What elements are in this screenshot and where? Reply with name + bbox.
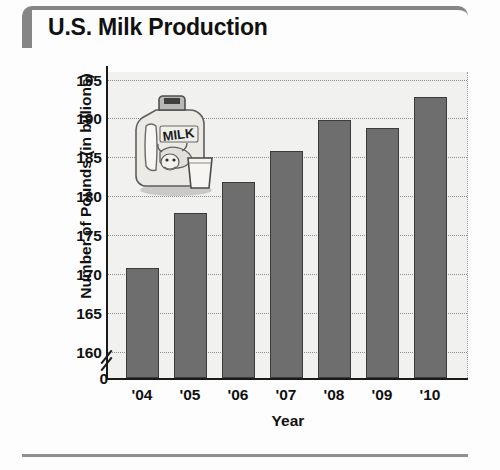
y-tick-label: 170 <box>32 266 102 284</box>
plot-area: MILK <box>108 72 468 378</box>
y-tick-label: 180 <box>32 188 102 206</box>
y-axis-origin-label: 0 <box>38 370 108 388</box>
bar-chart: Number of Pounds (in billions) <box>22 62 468 392</box>
bar-2004 <box>126 268 159 378</box>
x-tick-label-2004: '04 <box>117 386 167 404</box>
x-tick-label-2007: '07 <box>261 386 311 404</box>
bar-2009 <box>366 128 399 378</box>
bar-2006 <box>222 182 255 378</box>
bar-2008 <box>318 120 351 378</box>
bar-2005 <box>174 213 207 378</box>
chart-page: U.S. Milk Production Number of Pounds (i… <box>0 0 500 470</box>
y-tick-label: 175 <box>32 227 102 245</box>
bar-2010 <box>414 97 447 378</box>
x-axis-title: Year <box>108 412 468 430</box>
y-tick-label: 195 <box>32 72 102 90</box>
x-tick-label-2006: '06 <box>213 386 263 404</box>
x-axis-line <box>106 378 468 380</box>
bar-2007 <box>270 151 303 378</box>
x-tick-label-2005: '05 <box>165 386 215 404</box>
y-axis-line <box>106 66 108 380</box>
y-tick-label: 190 <box>32 110 102 128</box>
y-tick-label: 185 <box>32 149 102 167</box>
x-tick-label-2008: '08 <box>309 386 359 404</box>
x-tick-label-2009: '09 <box>357 386 407 404</box>
y-tick-label: 165 <box>32 305 102 323</box>
bar-series <box>108 72 468 378</box>
footer-divider <box>22 454 468 457</box>
x-tick-label-2010: '10 <box>405 386 455 404</box>
y-tick-label: 160 <box>32 344 102 362</box>
